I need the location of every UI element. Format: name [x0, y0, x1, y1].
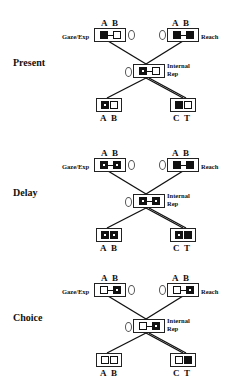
bottom-ab-letter-b: B	[111, 369, 117, 378]
self-loop-icon	[125, 197, 132, 207]
gaze-exp-node	[94, 158, 126, 172]
cell-filled-dot	[100, 161, 108, 169]
edge-internal-ct-2	[149, 78, 186, 98]
reach-letter-a: A	[172, 274, 179, 283]
gaze-exp-label: Gaze/Exp	[62, 288, 89, 295]
cell-hollow	[113, 31, 121, 39]
edge-internal-ab	[107, 333, 146, 353]
bottom-ct-letter-t: T	[184, 114, 190, 123]
edge-reach-internal	[146, 171, 183, 194]
reach-letter-b: B	[183, 274, 189, 283]
cell-hollow	[173, 286, 181, 294]
panel-delay: DelayABGaze/ExpABReachInternalRepABCT	[0, 130, 232, 255]
internal-rep-label-2: Rep	[167, 200, 178, 207]
gaze-letter-a: A	[101, 149, 108, 158]
gaze-letter-a: A	[101, 19, 108, 28]
panel-present: PresentABGaze/ExpABReachInternalRepABCT	[0, 0, 232, 125]
cell-filled-dot	[101, 101, 109, 109]
cell-filled-dot	[110, 231, 118, 239]
reach-node	[167, 28, 199, 42]
edge-internal-ab	[107, 78, 146, 98]
phase-label: Delay	[13, 187, 37, 198]
internal-rep-label-2: Rep	[167, 70, 178, 77]
bottom-ct-letter-c: C	[173, 244, 180, 253]
gaze-exp-node	[94, 283, 126, 297]
cell-hollow	[184, 101, 192, 109]
cell-filled-dot	[113, 286, 121, 294]
bottom-ct-node	[170, 98, 196, 112]
self-loop-icon	[128, 160, 135, 170]
cell-hollow	[100, 286, 108, 294]
cell-hollow	[110, 101, 118, 109]
edge-gaze-internal	[108, 296, 146, 319]
bottom-ct-letter-t: T	[184, 369, 190, 378]
reach-letter-b: B	[183, 149, 189, 158]
bottom-ab-node	[96, 98, 122, 112]
reach-node	[167, 283, 199, 297]
cell-hollow	[175, 356, 183, 364]
cell-hollow	[152, 67, 160, 75]
phase-label: Present	[13, 57, 45, 68]
bottom-ct-node	[170, 228, 196, 242]
cell-filled	[175, 101, 183, 109]
cell-filled-dot	[139, 197, 147, 205]
edge-gaze-internal	[108, 171, 146, 194]
bottom-ct-letter-c: C	[173, 369, 180, 378]
cell-filled	[100, 31, 108, 39]
bottom-ct-letter-c: C	[173, 114, 180, 123]
phase-label: Choice	[13, 312, 42, 323]
bottom-ct-letter-t: T	[184, 244, 190, 253]
reach-letter-a: A	[172, 149, 179, 158]
gaze-letter-a: A	[101, 274, 108, 283]
cell-filled-dot	[113, 161, 121, 169]
reach-label: Reach	[201, 288, 218, 295]
gaze-letter-b: B	[112, 19, 118, 28]
bottom-ab-node	[96, 353, 122, 367]
cell-filled-dot	[152, 322, 160, 330]
cell-hollow	[101, 356, 109, 364]
internal-rep-node	[133, 194, 165, 208]
self-loop-icon	[128, 30, 135, 40]
edge-internal-ct-2	[149, 333, 186, 353]
cell-filled-dot	[175, 231, 183, 239]
reach-label: Reach	[201, 33, 218, 40]
edge-internal-ct-2	[149, 208, 186, 228]
self-loop-icon	[159, 160, 166, 170]
cell-filled	[173, 161, 181, 169]
self-loop-icon	[128, 285, 135, 295]
reach-node	[167, 158, 199, 172]
panel-choice: ChoiceABGaze/ExpABReachInternalRepABCT	[0, 255, 232, 380]
bottom-ab-letter-a: A	[100, 114, 107, 123]
self-loop-icon	[125, 67, 132, 77]
self-loop-icon	[159, 30, 166, 40]
bottom-ab-letter-b: B	[111, 114, 117, 123]
edge-gaze-internal	[108, 41, 146, 64]
gaze-exp-node	[94, 28, 126, 42]
edge-internal-ct	[146, 333, 183, 353]
cell-filled-dot	[139, 67, 147, 75]
internal-rep-label: Internal	[167, 62, 190, 69]
cell-hollow	[110, 356, 118, 364]
internal-rep-label: Internal	[167, 192, 190, 199]
internal-rep-label: Internal	[167, 317, 190, 324]
self-loop-icon	[125, 322, 132, 332]
reach-letter-a: A	[172, 19, 179, 28]
gaze-exp-label: Gaze/Exp	[62, 33, 89, 40]
bottom-ab-node	[96, 228, 122, 242]
bottom-ct-node	[170, 353, 196, 367]
cell-filled	[173, 31, 181, 39]
bottom-ab-letter-a: A	[100, 369, 107, 378]
cell-filled	[184, 356, 192, 364]
cell-hollow	[139, 322, 147, 330]
gaze-letter-b: B	[112, 149, 118, 158]
gaze-exp-label: Gaze/Exp	[62, 163, 89, 170]
bottom-ab-letter-a: A	[100, 244, 107, 253]
edge-internal-ct	[146, 208, 183, 228]
edge-reach-internal	[146, 41, 183, 64]
cell-filled	[186, 31, 194, 39]
gaze-letter-b: B	[112, 274, 118, 283]
edge-internal-ab	[107, 208, 146, 228]
internal-rep-node	[133, 64, 165, 78]
internal-rep-label-2: Rep	[167, 325, 178, 332]
cell-filled-dot	[186, 286, 194, 294]
